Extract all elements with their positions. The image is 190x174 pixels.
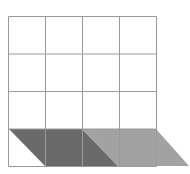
- grid-diagram: [0, 0, 190, 174]
